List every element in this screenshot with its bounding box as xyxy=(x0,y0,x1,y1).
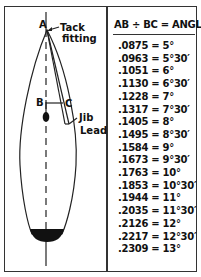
table-row: .1853 = 10°30′ xyxy=(118,180,196,193)
table-row: .1495 = 8°30′ xyxy=(118,129,196,142)
table-header: AB ÷ BC = ANGLE xyxy=(114,19,201,30)
point-a-label: A xyxy=(39,20,47,30)
table-rows: .0875 = 5° .0963 = 5°30′ .1051 = 6° .113… xyxy=(118,40,196,256)
table-row: .2217 = 12°30′ xyxy=(118,231,196,244)
header-underline xyxy=(113,34,195,35)
tack-label-line1: Tack xyxy=(60,23,85,33)
table-row: .2126 = 12° xyxy=(118,218,196,231)
jib-label-line1: Jib xyxy=(79,113,93,123)
table-row: .1228 = 7° xyxy=(118,91,196,104)
jib-line-inner xyxy=(47,30,65,124)
table-row: .0963 = 5°30′ xyxy=(118,53,196,66)
table-row: .1673 = 9°30′ xyxy=(118,154,196,167)
point-c-label: C xyxy=(65,99,72,109)
table-row: .1130 = 6°30′ xyxy=(118,78,196,91)
table-row: .1051 = 6° xyxy=(118,65,196,78)
jib-label-line2: Lead xyxy=(80,126,107,136)
table-row: .1405 = 8° xyxy=(118,116,196,129)
table-row: .1584 = 9° xyxy=(118,142,196,155)
stern-shading xyxy=(30,229,64,242)
table-row: .2309 = 13° xyxy=(118,243,196,256)
table-row: .1763 = 10° xyxy=(118,167,196,180)
hull-outline xyxy=(20,30,76,234)
point-b-label: B xyxy=(36,98,44,108)
table-row: .2035 = 11°30′ xyxy=(118,205,196,218)
table-row: .1317 = 7°30′ xyxy=(118,104,196,117)
table-row: .0875 = 5° xyxy=(118,40,196,53)
mast-icon xyxy=(43,112,50,122)
table-row: .1944 = 11° xyxy=(118,192,196,205)
tack-label-line2: fitting xyxy=(62,34,97,44)
